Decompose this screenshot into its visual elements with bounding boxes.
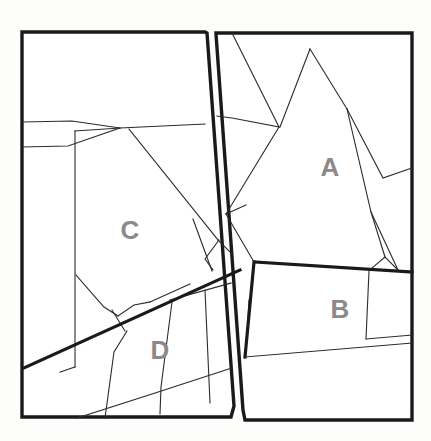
diagram-canvas: A B C D [0, 0, 431, 441]
region-label-b: B [331, 294, 350, 324]
region-label-d: D [151, 335, 170, 365]
right-panel-outline [216, 33, 412, 420]
region-label-c: C [121, 215, 140, 245]
region-label-a: A [321, 152, 340, 182]
partition-diagram: A B C D [0, 0, 431, 441]
